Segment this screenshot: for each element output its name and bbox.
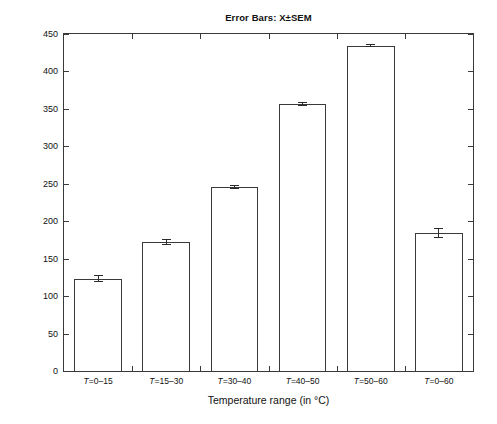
bar [142, 242, 190, 371]
y-tick-mark [64, 221, 69, 222]
y-tick-mark-right [468, 71, 473, 72]
y-tick-mark-right [468, 184, 473, 185]
y-tick-mark-right [468, 34, 473, 35]
bar [211, 187, 259, 371]
y-tick-mark [64, 334, 69, 335]
y-tick-label: 150 [43, 254, 58, 264]
y-tick-mark-right [468, 296, 473, 297]
y-tick-mark-right [468, 259, 473, 260]
y-tick-mark [64, 146, 69, 147]
x-tick-label: T=0–60 [424, 376, 453, 386]
x-tick-label: T=50–60 [354, 376, 388, 386]
x-axis-label: Temperature range (in °C) [63, 394, 474, 406]
error-bar-cap-bottom [162, 244, 171, 245]
error-bar-cap-top [298, 102, 307, 103]
x-tick-mark-top [269, 34, 270, 39]
bar [347, 46, 395, 371]
x-tick-label: T=0–15 [84, 376, 113, 386]
x-tick-mark-bottom [337, 366, 338, 371]
error-bar [228, 185, 240, 189]
y-tick-mark-right [468, 221, 473, 222]
y-tick-mark [64, 34, 69, 35]
error-bar-cap-bottom [366, 46, 375, 47]
x-tick-mark-bottom [132, 366, 133, 371]
plot-area [63, 33, 474, 372]
y-tick-label: 250 [43, 179, 58, 189]
y-tick-mark-right [468, 371, 473, 372]
x-tick-mark-bottom [405, 366, 406, 371]
error-bar-cap-bottom [434, 237, 443, 238]
y-tick-label: 0 [53, 366, 58, 376]
y-tick-mark [64, 109, 69, 110]
error-bar-cap-top [94, 275, 103, 276]
x-tick-mark-top [337, 34, 338, 39]
y-tick-label: 300 [43, 141, 58, 151]
y-tick-label: 50 [48, 329, 58, 339]
error-bar [160, 239, 172, 245]
x-tick-mark-top [132, 34, 133, 39]
y-tick-label: 450 [43, 29, 58, 39]
y-tick-mark [64, 371, 69, 372]
x-tick-mark-top [405, 34, 406, 39]
y-tick-label: 200 [43, 216, 58, 226]
y-tick-mark-right [468, 334, 473, 335]
bar [415, 233, 463, 371]
error-bar [365, 44, 377, 47]
x-tick-mark-top [200, 34, 201, 39]
figure-canvas: Error Bars: X±SEM Pressure Deviation (ub… [0, 0, 497, 424]
error-bar [433, 228, 445, 238]
y-tick-label: 400 [43, 66, 58, 76]
y-tick-label: 100 [43, 291, 58, 301]
error-bar-cap-top [366, 44, 375, 45]
error-bar-cap-top [434, 228, 443, 229]
error-bar-cap-top [230, 185, 239, 186]
chart-title: Error Bars: X±SEM [63, 12, 474, 23]
x-tick-label: T=15–30 [149, 376, 183, 386]
plot-inner [64, 34, 473, 371]
x-tick-label: T=30–40 [218, 376, 252, 386]
bar [74, 279, 122, 371]
error-bar-cap-top [162, 239, 171, 240]
x-tick-label: T=40–50 [286, 376, 320, 386]
x-tick-mark-bottom [269, 366, 270, 371]
error-bar [92, 275, 104, 282]
y-tick-mark [64, 259, 69, 260]
y-tick-mark [64, 71, 69, 72]
error-bar-cap-bottom [298, 105, 307, 106]
y-tick-mark [64, 184, 69, 185]
y-tick-label: 350 [43, 104, 58, 114]
error-bar-cap-bottom [230, 188, 239, 189]
error-bar [297, 102, 309, 106]
bar [279, 104, 327, 371]
x-tick-mark-bottom [200, 366, 201, 371]
y-tick-mark [64, 296, 69, 297]
y-tick-mark-right [468, 146, 473, 147]
error-bar-cap-bottom [94, 281, 103, 282]
y-tick-mark-right [468, 109, 473, 110]
